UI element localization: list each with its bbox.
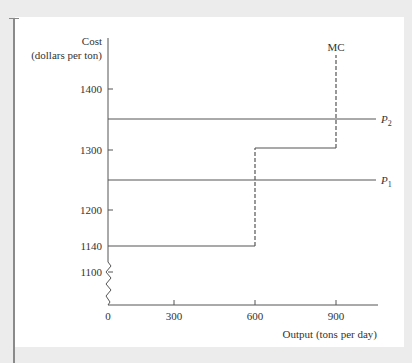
p1-label: P1 [380,174,392,189]
y-tick-label: 1100 [80,266,102,278]
y-tick-label: 1200 [80,204,103,216]
y-tick-label: 1140 [80,240,102,252]
y-axis-subtitle: (dollars per ton) [31,49,102,62]
x-axis-title: Output (tons per day) [283,328,378,341]
mc-label: MC [327,41,344,53]
mc-curve [108,55,336,246]
p2-label: P2 [380,113,392,128]
x-tick-label: 0 [105,310,111,322]
y-axis-break [106,262,111,305]
x-tick-label: 600 [247,310,264,322]
x-ticks [174,300,336,305]
chart-svg: 1400 1300 1200 1140 1100 0 300 600 900 C… [0,0,412,363]
x-tick-label: 900 [328,310,345,322]
y-axis-title: Cost [82,35,102,47]
y-tick-label: 1400 [80,83,103,95]
x-tick-label: 300 [166,310,183,322]
y-tick-label: 1300 [80,144,103,156]
